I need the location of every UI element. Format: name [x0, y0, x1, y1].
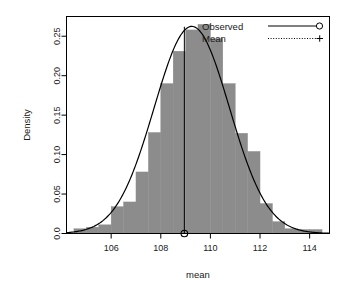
- histogram-bar: [248, 151, 260, 233]
- y-axis-tick-label: 0.25: [52, 27, 62, 45]
- legend-label: Observed: [202, 21, 243, 32]
- histogram-bar: [285, 229, 297, 234]
- y-axis-tick-label: 0.10: [52, 146, 62, 164]
- histogram-bar: [272, 222, 284, 234]
- histogram-bar: [161, 84, 173, 234]
- y-axis-title: Density: [21, 109, 32, 141]
- x-axis-tick-label: 112: [253, 243, 267, 253]
- histogram-bar: [124, 202, 136, 234]
- histogram-bar: [99, 225, 111, 234]
- histogram-bar: [148, 132, 160, 233]
- y-axis-tick-label: 0.05: [52, 185, 62, 203]
- y-axis-tick-label: 0.0: [52, 227, 62, 240]
- y-axis-tick-label: 0.20: [52, 67, 62, 85]
- histogram-bar: [186, 30, 198, 234]
- x-axis-tick-label: 110: [203, 243, 217, 253]
- chart-canvas: 106108110112114 0.00.050.100.150.200.25 …: [0, 0, 349, 296]
- histogram-bar: [235, 133, 247, 233]
- histogram-bar: [198, 24, 210, 233]
- histogram-bar: [136, 172, 148, 234]
- x-axis-title: mean: [186, 269, 210, 280]
- x-axis-tick-label: 114: [302, 243, 316, 253]
- histogram-bar: [173, 51, 185, 233]
- x-axis-tick-label: 108: [153, 243, 168, 253]
- density-histogram-chart: 106108110112114 0.00.050.100.150.200.25 …: [0, 0, 349, 296]
- legend-label: Mean: [202, 33, 226, 44]
- x-axis-tick-label: 106: [104, 243, 119, 253]
- y-axis-tick-label: 0.15: [52, 106, 62, 124]
- histogram-bar: [260, 204, 272, 234]
